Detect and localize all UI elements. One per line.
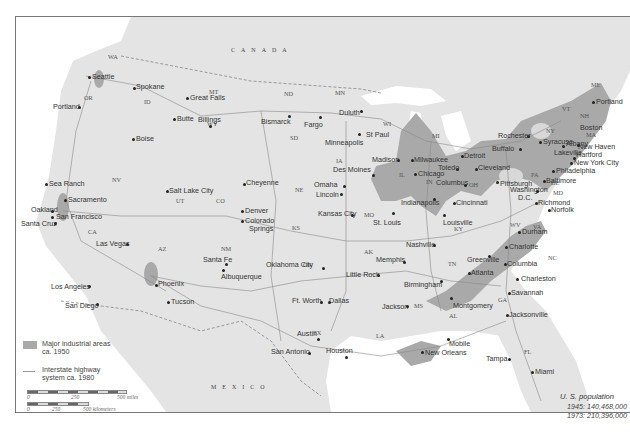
- city-label-albuquerque: Albuquerque: [221, 273, 262, 280]
- city-label-washington-2: D.C.: [518, 194, 532, 201]
- city-label-des-moines: Des Moines: [333, 166, 371, 173]
- state-label-co: CO: [216, 198, 225, 204]
- city-dot-st-paul: [358, 133, 361, 136]
- city-dot-st-louis: [392, 212, 395, 215]
- city-label-little-rock: Little Rock: [346, 271, 380, 278]
- country-label-canada: CANADA: [231, 47, 293, 53]
- city-dot-lincoln: [340, 193, 343, 196]
- city-label-colorado-springs-2: Springs: [249, 225, 273, 232]
- state-label-ne: NE: [295, 187, 303, 193]
- city-dot-butte: [173, 118, 176, 121]
- city-label-norfolk: Norfolk: [551, 206, 574, 213]
- state-label-mn: MN: [335, 90, 345, 96]
- scale-km-end: 500 kilometers: [83, 406, 116, 412]
- city-dot-boise: [132, 138, 135, 141]
- scale-miles-start: 0: [27, 394, 30, 400]
- city-label-savannah: Savannah: [511, 289, 543, 296]
- city-label-minneapolis: Minneapolis: [325, 139, 363, 146]
- city-label-billings: Billings: [198, 116, 221, 123]
- city-label-portland-me: Portland: [596, 98, 623, 105]
- city-label-los-angeles: Los Angeles: [51, 283, 90, 290]
- state-label-ga: GA: [498, 297, 507, 303]
- city-label-memphis: Memphis: [376, 256, 405, 263]
- state-label-ma: MA: [586, 132, 596, 138]
- scale-miles-mid: 250: [71, 394, 79, 400]
- state-label-vt: VT: [562, 106, 570, 112]
- city-label-boise: Boise: [136, 135, 154, 142]
- city-label-madison: Madison: [372, 156, 399, 163]
- city-dot-colorado-springs: [241, 220, 244, 223]
- city-label-columbia: Columbia: [507, 260, 537, 267]
- lake-superior: [361, 86, 446, 106]
- city-label-jacksonville: Jacksonville: [509, 311, 548, 318]
- state-label-ca: CA: [88, 229, 97, 235]
- city-dot-louisville: [443, 214, 446, 217]
- city-dot-portland-me: [592, 101, 595, 104]
- scale-miles-end: 500 miles: [117, 394, 138, 400]
- city-label-baltimore: Baltimore: [546, 177, 576, 184]
- city-label-miami: Miami: [535, 368, 554, 375]
- city-label-salt-lake: Salt Lake City: [169, 187, 213, 194]
- city-label-houston: Houston: [326, 347, 353, 354]
- state-label-al: AL: [449, 313, 457, 319]
- state-label-ks: KS: [292, 225, 300, 231]
- city-dot-seattle: [88, 76, 91, 79]
- state-label-oh: OH: [469, 182, 478, 188]
- city-label-toledo: Toledo: [438, 164, 459, 171]
- city-label-indianapolis: Indianapolis: [401, 199, 439, 206]
- city-dot-fargo: [319, 116, 322, 119]
- state-label-wi: WI: [383, 121, 391, 127]
- city-dot-charleston: [516, 278, 519, 281]
- industrial-area-la: [144, 262, 158, 286]
- state-label-ar: AK: [364, 249, 373, 255]
- city-label-st-paul: St Paul: [366, 131, 389, 138]
- city-label-lincoln: Lincoln: [316, 191, 339, 198]
- city-label-tampa: Tampa: [486, 355, 508, 362]
- country-label-mexico: MEXICO: [211, 384, 271, 390]
- city-dot-durham: [518, 231, 521, 234]
- city-label-detroit: Detroit: [464, 152, 485, 159]
- state-label-id: ID: [144, 99, 151, 105]
- state-label-md: MD: [553, 190, 563, 196]
- city-label-butte: Butte: [177, 115, 194, 122]
- city-label-st-louis: St. Louis: [373, 219, 401, 226]
- city-dot-new-york: [570, 162, 573, 165]
- city-label-san-antonio: San Antonio: [271, 348, 310, 355]
- city-label-montgomery: Montgomery: [453, 302, 493, 309]
- city-dot-new-orleans: [421, 351, 424, 354]
- city-label-las-vegas: Las Vegas: [96, 240, 130, 247]
- legend-industrial-label-2: ca. 1950: [42, 348, 70, 356]
- city-label-great-falls: Great Falls: [190, 94, 225, 101]
- state-label-fl: FL: [524, 349, 531, 355]
- city-label-sacramento: Sacramento: [68, 196, 107, 203]
- state-label-or: OR: [84, 95, 93, 101]
- state-label-nc: NC: [548, 255, 557, 261]
- city-label-tucson: Tucson: [171, 298, 194, 305]
- city-label-new-york: New York City: [574, 159, 619, 166]
- city-label-bismarck: Bismarck: [261, 118, 291, 125]
- city-label-cincinnati: Cincinnati: [456, 199, 488, 206]
- city-dot-houston: [345, 356, 348, 359]
- city-dot-buffalo: [519, 148, 522, 151]
- city-label-san-diego: San Diego: [65, 302, 99, 309]
- state-label-wv: WV: [510, 222, 521, 228]
- city-dot-austin: [317, 338, 320, 341]
- city-dot-miami: [531, 371, 534, 374]
- city-label-dallas: Dallas: [329, 297, 349, 304]
- city-dot-pittsburgh: [496, 181, 499, 184]
- state-label-nh: NH: [580, 113, 589, 119]
- state-label-nv: NV: [112, 177, 121, 183]
- city-label-omaha: Omaha: [314, 181, 338, 188]
- city-label-birmingham: Birmingham: [404, 281, 442, 288]
- city-dot-duluth: [360, 110, 363, 113]
- city-label-charleston: Charleston: [521, 275, 556, 282]
- state-label-pa: PA: [531, 172, 538, 178]
- state-label-tn: TN: [448, 261, 456, 267]
- state-label-ny: NY: [546, 128, 555, 134]
- state-label-nm: NM: [221, 246, 231, 252]
- state-label-la: LA: [376, 333, 384, 339]
- state-label-me: ME: [591, 82, 600, 88]
- city-label-cleveland: Cleveland: [478, 164, 510, 171]
- city-label-fargo: Fargo: [304, 121, 323, 128]
- city-label-mobile: Mobile: [449, 340, 470, 347]
